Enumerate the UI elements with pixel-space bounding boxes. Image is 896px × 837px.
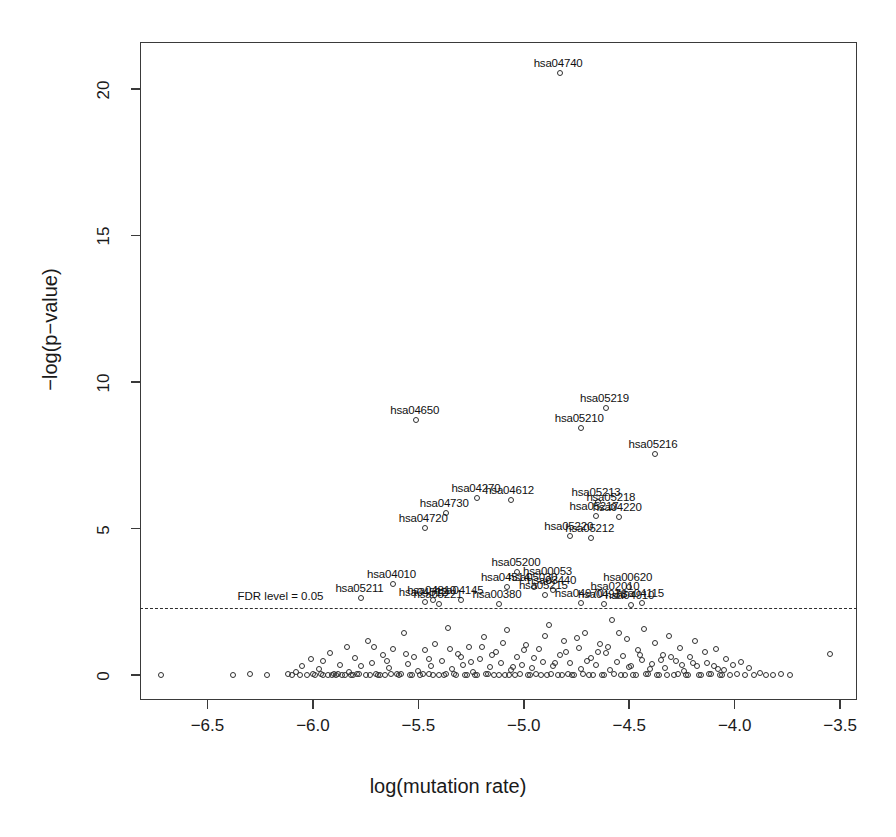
point-label: hsa04220 [593,501,642,513]
data-point [679,662,685,668]
data-point [158,672,164,678]
data-point [426,656,432,662]
data-point [529,665,535,671]
data-point [230,672,236,678]
data-point [763,672,769,678]
data-point [690,660,696,666]
data-point [654,672,660,678]
data-point [396,672,402,678]
data-point [377,672,383,678]
data-point [479,644,485,650]
data-point [770,672,776,678]
data-point [557,652,563,658]
data-point [384,658,390,664]
x-tick-mark [628,700,630,709]
data-point [350,672,356,678]
data-point [696,672,702,678]
y-tick-label: 10 [94,363,114,403]
data-point [757,670,763,676]
data-point [574,635,580,641]
data-point [460,662,466,668]
data-point [500,640,506,646]
x-tick-mark [418,700,420,709]
x-tick-label: −5.5 [388,716,448,736]
data-point [521,647,527,653]
point-label: hsa05219 [580,392,629,404]
data-point [264,672,270,678]
data-point [458,654,464,660]
fdr-threshold-label: FDR level = 0.05 [238,590,324,602]
data-point-labeled [652,451,658,457]
data-point [403,651,409,657]
data-point [664,672,670,678]
data-point [407,672,413,678]
data-point [633,672,639,678]
data-point [477,656,483,662]
x-tick-label: −6.0 [283,716,343,736]
data-point [519,662,525,668]
data-point [711,663,717,669]
point-label: hsa04740 [534,57,583,69]
data-point [685,672,691,678]
data-point [445,625,451,631]
data-point [637,652,643,658]
x-tick-label: −4.5 [599,716,659,736]
y-tick-mark [131,674,140,676]
data-point-labeled [603,405,609,411]
x-tick-label: −3.5 [810,716,870,736]
y-tick-mark [131,235,140,237]
data-point [474,672,480,678]
data-point [504,627,510,633]
data-point [734,671,740,677]
point-label: hsa05210 [555,412,604,424]
point-label: hsa04612 [485,484,534,496]
data-point [468,659,474,665]
data-point [538,672,544,678]
data-point [641,626,647,632]
x-tick-mark [207,700,209,709]
data-point-labeled [639,600,645,606]
data-point [439,658,445,664]
point-label: hsa04010 [367,568,416,580]
data-point [441,672,447,678]
data-point-labeled [557,70,563,76]
x-tick-mark [839,700,841,709]
data-point [590,672,596,678]
data-point [622,672,628,678]
data-point [742,672,748,678]
data-point [601,672,607,678]
data-point-labeled [422,525,428,531]
data-point [595,649,601,655]
data-point [498,660,504,666]
data-point [677,645,683,651]
data-point [531,655,537,661]
data-point [540,659,546,665]
data-point [430,672,436,678]
data-point [593,662,599,668]
x-tick-label: −6.5 [177,716,237,736]
data-point [576,645,582,651]
data-point [692,638,698,644]
data-point [751,672,757,678]
data-point-labeled [593,513,599,519]
point-label: hsa00380 [473,588,522,600]
data-point [506,672,512,678]
data-point [308,656,314,662]
data-point [614,659,620,665]
data-point [620,653,626,659]
data-point [569,672,575,678]
y-tick-mark [131,88,140,90]
data-point [713,646,719,652]
data-point [489,652,495,658]
data-point-labeled [601,601,607,607]
data-point-labeled [578,600,584,606]
data-point [496,672,502,678]
data-point [827,651,833,657]
y-tick-label: 15 [94,216,114,256]
data-point [582,630,588,636]
data-point-labeled [496,601,502,607]
data-point [647,666,653,672]
data-point [730,662,736,668]
data-point [312,672,318,678]
data-point [365,638,371,644]
